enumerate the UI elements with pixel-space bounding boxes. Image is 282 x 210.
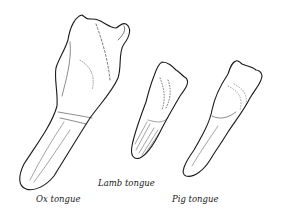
- lamb-tongue-drawing: [131, 62, 187, 159]
- lamb-tongue-label: Lamb tongue: [98, 178, 155, 188]
- ox-tongue-label: Ox tongue: [36, 194, 80, 204]
- pig-tongue-drawing: [183, 61, 262, 177]
- pig-tongue-label: Pig tongue: [172, 194, 219, 204]
- ox-tongue-drawing: [20, 15, 130, 190]
